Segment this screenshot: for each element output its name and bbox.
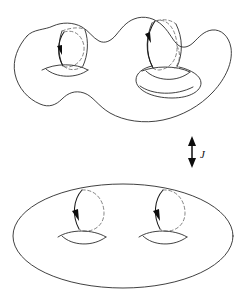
bottom-right-hole-lower-lip [143, 236, 187, 244]
map-arrow-head-up [188, 136, 196, 146]
isotopy-map-arrow: J [188, 136, 206, 168]
figure-root: J [0, 0, 246, 296]
standard-surface-outline [13, 184, 233, 288]
map-arrow-head-down [188, 158, 196, 168]
bottom-left-cycle-hidden-arc [79, 190, 104, 231]
top-surface-panel [14, 17, 231, 122]
bottom-left-hole-lower-lip [62, 236, 106, 244]
bottom-right-hole-upper-lip [139, 231, 187, 237]
left-handle-hidden-edge [62, 28, 85, 31]
right-handle-torus-inner-lower [146, 71, 190, 79]
surface-diagram-svg: J [0, 0, 246, 296]
bottom-left-hole-upper-lip [58, 231, 106, 237]
bottom-left-cycle-arc [74, 190, 82, 229]
bottom-right-cycle-arc [155, 190, 163, 229]
right-handle-torus-bottom-edge [140, 86, 193, 93]
top-left-hole-lower-lip [46, 69, 88, 76]
top-left-cycle-hidden-arc [63, 31, 84, 67]
bottom-right-cycle-hidden-arc [160, 190, 185, 231]
bottom-surface-panel [13, 184, 233, 288]
map-label-J: J [200, 148, 206, 160]
top-right-cycle-arc [148, 21, 155, 68]
